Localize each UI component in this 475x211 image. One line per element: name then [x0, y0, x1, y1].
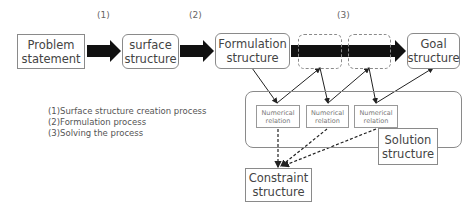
step-label-3: (3)	[337, 10, 350, 20]
constraint-structure-node: Constraint structure	[245, 168, 312, 202]
legend-item-2: (2)Formulation process	[48, 117, 206, 128]
legend-item-1: (1)Surface structure creation process	[48, 106, 206, 117]
step-label-1: (1)	[97, 10, 110, 20]
step-label-2: (2)	[189, 10, 202, 20]
process-legend: (1)Surface structure creation process (2…	[48, 106, 206, 139]
surface-structure-node: surface structure	[122, 34, 179, 69]
numerical-relation-1: Numerical relation	[256, 105, 300, 128]
intermediate-structure-placeholder-1	[298, 34, 342, 69]
numerical-relation-3: Numerical relation	[354, 105, 398, 128]
numerical-relation-2: Numerical relation	[306, 105, 349, 128]
legend-item-3: (3)Solving the process	[48, 128, 206, 139]
process-arrow-2	[180, 40, 214, 62]
goal-structure-node: Goal structure	[407, 33, 460, 69]
process-arrow-1	[87, 40, 121, 62]
formulation-structure-node: Formulation structure	[215, 33, 290, 69]
problem-statement-node: Problem statement	[17, 34, 85, 69]
solution-structure-label: Solution structure	[378, 128, 438, 165]
intermediate-structure-placeholder-2	[348, 34, 391, 69]
